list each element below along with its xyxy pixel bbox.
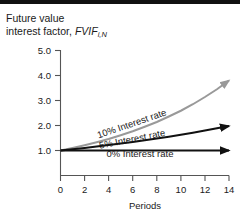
x-tick-label: 4 — [106, 184, 111, 195]
y-tick-labels: 5.0 4.0 3.0 2.0 1.0 — [38, 45, 51, 156]
x-tick-label: 2 — [82, 184, 87, 195]
x-tick-label: 0 — [58, 184, 63, 195]
chart-plot: 5.0 4.0 3.0 2.0 1.0 0 2 4 6 8 10 12 14 — [0, 0, 240, 221]
x-tick-label: 12 — [200, 184, 211, 195]
x-tick-label: 6 — [130, 184, 135, 195]
x-tick-label: 10 — [176, 184, 187, 195]
y-tick-label: 5.0 — [38, 45, 51, 56]
x-tick-marks — [61, 176, 230, 182]
x-tick-label: 8 — [154, 184, 159, 195]
y-tick-marks — [55, 51, 61, 151]
x-axis-label: Periods — [129, 200, 161, 211]
y-tick-label: 2.0 — [38, 120, 51, 131]
figure-container: Future value interest factor, FVIFi,N 5.… — [0, 0, 240, 221]
series-annotations: 10% Interest rate 5% Interest rate 0% In… — [96, 106, 174, 159]
y-tick-label: 3.0 — [38, 95, 51, 106]
y-tick-label: 1.0 — [38, 145, 51, 156]
x-tick-labels: 0 2 4 6 8 10 12 14 — [58, 184, 234, 195]
series-label-0-percent: 0% Interest rate — [106, 148, 173, 159]
y-tick-label: 4.0 — [38, 70, 51, 81]
x-tick-label: 14 — [224, 184, 235, 195]
